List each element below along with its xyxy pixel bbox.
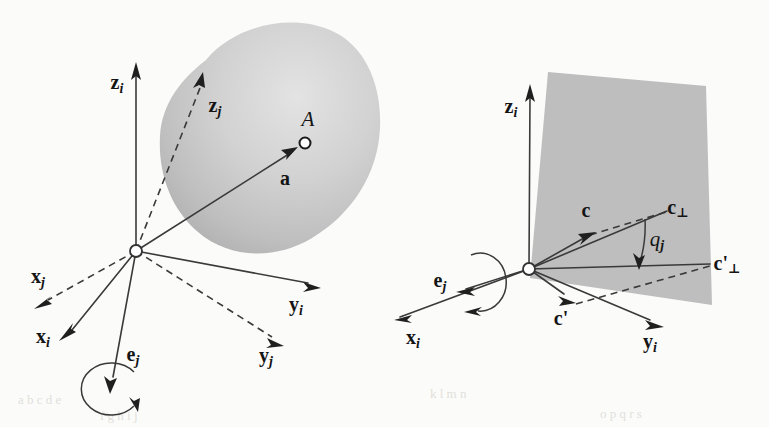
axis-x-i-line — [72, 251, 136, 330]
scan-artifact-text: a b c d e — [18, 392, 62, 407]
rotation-plane-shape — [530, 72, 712, 305]
label-c-prime: c' — [554, 307, 568, 329]
label-A: A — [300, 107, 315, 131]
scan-artifact-text: f g h i j — [100, 408, 138, 423]
axis-e-j-arrowhead — [104, 376, 117, 394]
label-z-i: zi — [111, 71, 124, 97]
label-z-i-right: zi — [505, 95, 518, 121]
axis-z-i-line-right — [529, 95, 530, 269]
axis-x-i-arrowhead — [59, 323, 76, 341]
scan-artifact-layer: a b c d e f g h i j k l m n o p q r s — [18, 386, 642, 423]
label-e-j: ej — [127, 343, 140, 369]
axis-y-i-arrowhead — [303, 282, 321, 292]
left-panel: zi zj A a yi — [31, 23, 380, 415]
label-x-j: xj — [31, 265, 45, 291]
origin-marker-right — [523, 263, 535, 275]
label-x-i: xi — [36, 325, 50, 351]
scan-artifact-text: o p q r s — [600, 406, 642, 421]
vector-e-j-line-right — [466, 269, 529, 289]
rigid-body-shape — [160, 23, 380, 254]
label-y-i-right: yi — [643, 330, 657, 356]
label-x-i-right: xi — [406, 326, 420, 352]
axis-y-i-arrowhead-right — [645, 320, 664, 330]
label-y-i: yi — [289, 293, 303, 319]
axis-x-j-arrowhead — [34, 296, 52, 309]
origin-marker-left — [130, 245, 142, 257]
right-panel: zi c⊥ c c'⊥ c' — [394, 72, 740, 355]
figure-canvas: a b c d e f g h i j k l m n o p q r s zi… — [0, 0, 769, 427]
label-c: c — [582, 199, 591, 221]
vector-c-prime-arrowhead — [558, 296, 576, 306]
point-A-marker — [300, 138, 311, 149]
label-c-prime-perp: c'⊥ — [714, 252, 741, 276]
label-a-vector: a — [280, 167, 290, 189]
scan-artifact-text: k l m n — [430, 386, 467, 401]
axis-x-j-line — [48, 251, 136, 300]
label-e-j-right: ej — [434, 269, 447, 295]
figure-root: a b c d e f g h i j k l m n o p q r s zi… — [0, 0, 769, 427]
